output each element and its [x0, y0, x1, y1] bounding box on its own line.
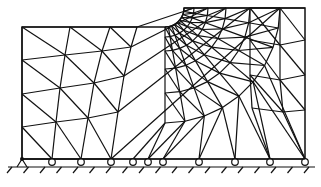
roller-support-icon: [78, 159, 85, 166]
roller-support-icon: [130, 159, 137, 166]
roller-support-icon: [302, 159, 309, 166]
mesh-elements: [22, 8, 305, 159]
roller-support-icon: [49, 159, 56, 166]
roller-support-icon: [108, 159, 115, 166]
roller-support-icon: [267, 159, 274, 166]
ground-hatching: [7, 167, 315, 173]
supports: [17, 157, 308, 167]
roller-support-icon: [196, 159, 203, 166]
roller-support-icon: [232, 159, 239, 166]
roller-support-icon: [145, 159, 152, 166]
mesh-canvas: [0, 0, 321, 187]
fem-mesh-diagram: [0, 0, 321, 187]
roller-support-icon: [160, 159, 167, 166]
